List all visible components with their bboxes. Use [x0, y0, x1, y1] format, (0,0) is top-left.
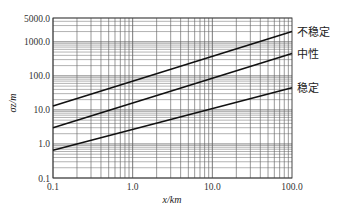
x-tick-labels: 0.11.010.0100.0 — [47, 182, 303, 192]
series-line-0 — [53, 32, 292, 106]
x-axis-label: x/km — [162, 194, 182, 205]
x-tick-label: 10.0 — [204, 182, 221, 192]
chart: 0.11.010.0100.01000.05000.0 0.11.010.010… — [0, 0, 337, 216]
series-label-2: 稳定 — [297, 81, 319, 95]
x-tick-label: 1.0 — [127, 182, 139, 192]
y-tick-label: 10.0 — [33, 105, 50, 115]
y-tick-label: 5000.0 — [24, 14, 50, 24]
series-line-2 — [53, 88, 292, 151]
y-axis-label: σz/m — [7, 94, 18, 113]
series-label-0: 不稳定 — [297, 25, 330, 39]
y-tick-label: 1.0 — [38, 139, 50, 149]
x-tick-label: 100.0 — [281, 182, 303, 192]
y-tick-label: 1000.0 — [24, 37, 50, 47]
y-tick-labels: 0.11.010.0100.01000.05000.0 — [24, 14, 50, 184]
y-tick-label: 100.0 — [29, 71, 51, 81]
series-line-1 — [53, 54, 292, 128]
series-label-1: 中性 — [297, 47, 319, 61]
series-labels: 不稳定中性稳定 — [297, 25, 330, 95]
x-tick-label: 0.1 — [47, 182, 59, 192]
